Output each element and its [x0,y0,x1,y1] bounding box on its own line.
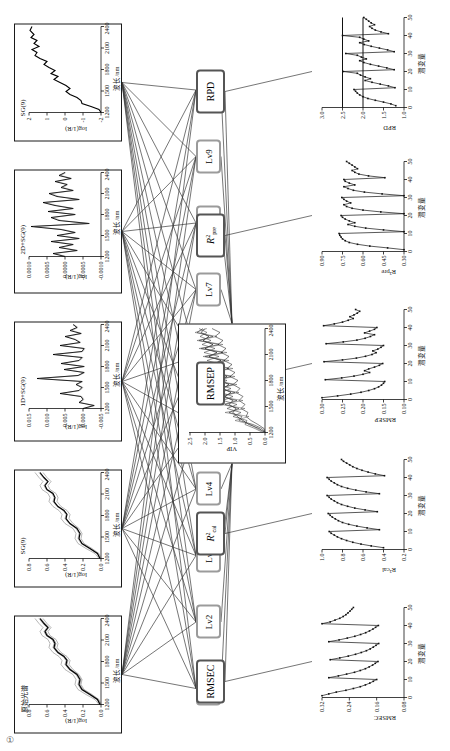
metric-series-line [343,17,396,105]
ytick: 2.5 [340,111,346,139]
xtick: 1500 [104,381,110,393]
latent-node-label: Lv4 [204,481,214,496]
xtick: 2100 [268,348,274,360]
ytick: 1 [44,117,50,134]
metric-node-label: RMSEP [205,367,216,400]
x-axis-label: 潜变量 [416,344,426,365]
wire-spectra3-lv10 [122,90,196,232]
latent-node-lv4[interactable]: Lv4 [196,472,221,506]
ytick: 0.20 [360,403,366,431]
wire-spectra4-lv7 [122,82,196,289]
metric-plot-r2cal [312,455,438,583]
xtick: 2400 [268,324,274,336]
ytick: 2 [26,117,32,134]
wire-metricbox-panel0 [225,661,312,681]
x-axis-label: 潜变量 [416,196,426,217]
spectra-panel-sg9: SG(9) 1200 1500 1800 2100 [14,469,122,587]
metric-node-rmsep[interactable]: RMSEP [196,361,225,405]
ytick: -0.005 [98,413,104,440]
metric-panel-rmsec: 010203040500.320.240.160.08潜变量RMSEC [312,603,438,731]
y-axis-label: RMSEC [374,714,396,721]
second-derivative-shadow [33,172,90,256]
ytick: 0.0010 [26,261,32,292]
metric-series-markers [321,308,385,398]
xtick: 30 [407,640,413,646]
xtick: 40 [407,474,413,480]
xtick: 1200 [104,698,110,710]
x-axis-label: 波长/nm [111,658,121,682]
ytick: 1.5 [217,437,223,458]
y-axis-label: R²cal [382,566,396,573]
xtick: 50 [407,306,413,312]
xtick: 1500 [104,85,110,97]
ytick: 0.90 [319,255,325,283]
metric-node-r2cal[interactable]: R2cal [196,511,225,555]
y-axis-label: log(1/R) [65,423,87,430]
xtick: 20 [407,68,413,74]
xtick: 1500 [268,400,274,412]
xtick: 10 [407,378,413,384]
xtick: 10 [407,676,413,682]
metric-node-r2pre[interactable]: R2pre [196,213,225,257]
wire-metricbox-panel1 [225,513,312,533]
ytick: 1.0 [319,553,325,581]
wire-spectra4-lv6 [122,82,196,356]
latent-node-lv2[interactable]: Lv2 [196,605,221,639]
xtick: 2400 [104,168,110,180]
xtick: 1200 [268,426,274,438]
ytick: 0.2 [401,553,407,581]
x-axis-label: 波长/nm [111,210,121,234]
y-axis-label: log(1/R) [65,717,87,724]
y-axis-label: log(1/R) [65,125,87,132]
metric-series-line [322,309,385,397]
metric-series-line [339,161,404,249]
ytick: 1.0 [401,111,407,139]
axis-ticks [322,17,407,110]
metric-node-rpd[interactable]: RPD [196,69,225,113]
latent-node-lv7[interactable]: Lv7 [196,272,221,306]
ytick: 0.30 [319,403,325,431]
metric-node-label: RPD [205,81,216,100]
ytick: 0.32 [319,701,325,729]
xtick: 0 [407,106,413,109]
metric-node-label: R2pre [205,227,217,244]
axis-ticks [322,309,407,402]
xtick: 50 [407,456,413,462]
xtick: 2400 [104,468,110,480]
xtick: 30 [407,50,413,56]
vip-panel: 1200 1500 1800 2100 2400 2.5 2.0 1.5 1.0… [178,323,286,463]
latent-node-lv9[interactable]: Lv9 [196,139,221,173]
xtick: 2400 [104,320,110,332]
wire-lv10-vip [221,90,232,324]
wire-spectra0-lv3 [122,555,196,674]
ytick: 0.0 [98,709,104,730]
xtick: 1800 [104,360,110,372]
xtick: 50 [407,158,413,164]
xtick: 0 [407,398,413,401]
spectra-panel-1d-sg9: 1D+SG(9) 1200 1500 1800 2100 2400 0.015 [14,321,122,441]
ytick: 0.0 [262,437,268,458]
xtick: 1800 [268,374,274,386]
xtick: 2100 [104,339,110,351]
x-axis-label: 波长/nm [111,66,121,90]
y-axis-label: VIP [227,445,237,452]
ytick: 0.5 [247,437,253,458]
metric-node-label: RMSEC [205,664,216,698]
y-axis-label: R²pre [381,268,396,275]
x-axis-label: 潜变量 [416,494,426,515]
x-axis-label: 波长/nm [111,362,121,386]
metric-series-line [322,607,379,695]
rotated-figure: 原始光谱 1200 1500 1800 [0,0,450,751]
xtick: 10 [407,86,413,92]
ytick: 0.0005 [44,261,50,292]
figure-corner-mark: ① [6,735,14,745]
ytick: 0.75 [340,255,346,283]
ytick: 2.0 [202,437,208,458]
xtick: 0 [407,696,413,699]
xtick: 1500 [104,531,110,543]
ytick: 0.10 [401,403,407,431]
metric-node-rmsec[interactable]: RMSEC [196,659,225,703]
ytick: 0.015 [26,413,32,440]
xtick: 2100 [104,488,110,500]
metric-plot-rpd [312,13,438,141]
